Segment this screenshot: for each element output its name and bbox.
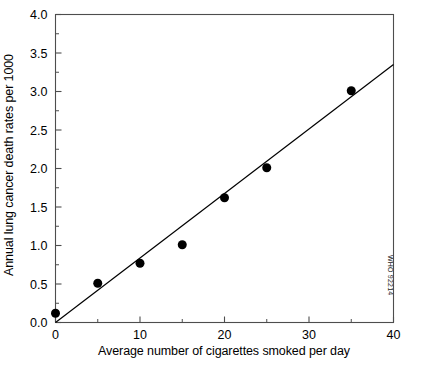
data-point <box>136 259 145 268</box>
y-tick-label: 0.5 <box>30 278 47 292</box>
data-point <box>220 193 229 202</box>
y-axis-ticks <box>56 15 62 323</box>
x-tick-label: 0 <box>52 328 59 342</box>
x-tick-label: 20 <box>218 328 232 342</box>
scatter-plot-canvas: 010203040 0.00.51.01.52.02.53.03.54.0 <box>0 0 422 367</box>
y-tick-label: 2.0 <box>30 162 47 176</box>
y-tick-label: 2.5 <box>30 124 47 138</box>
data-point <box>93 279 102 288</box>
y-tick-label: 1.0 <box>30 239 47 253</box>
x-axis-tick-labels: 010203040 <box>52 328 400 342</box>
axes-frame <box>56 15 394 323</box>
y-tick-label: 1.5 <box>30 201 47 215</box>
x-axis-ticks <box>56 317 394 323</box>
chart-figure: Annual lung cancer death rates per 1000 … <box>0 0 422 367</box>
y-tick-label: 3.0 <box>30 85 47 99</box>
y-tick-label: 3.5 <box>30 47 47 61</box>
y-tick-label: 0.0 <box>30 316 47 330</box>
y-axis-tick-labels: 0.00.51.01.52.02.53.03.54.0 <box>30 8 47 330</box>
data-point <box>347 86 356 95</box>
data-point <box>262 163 271 172</box>
data-point <box>51 309 60 318</box>
x-tick-label: 30 <box>302 328 316 342</box>
y-tick-label: 4.0 <box>30 8 47 22</box>
data-points <box>51 86 356 318</box>
data-point <box>178 240 187 249</box>
x-tick-label: 40 <box>387 328 401 342</box>
x-tick-label: 10 <box>133 328 147 342</box>
